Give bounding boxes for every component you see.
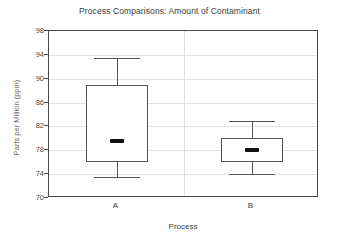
box-plot-b xyxy=(49,31,317,196)
box-plot-chart: Process Comparisons: Amount of Contamina… xyxy=(0,0,339,241)
y-tick-label: 82 xyxy=(0,121,44,130)
lower-whisker xyxy=(252,162,253,174)
y-tick-label: 74 xyxy=(0,169,44,178)
plot-area xyxy=(48,30,318,197)
x-axis-title: Process xyxy=(48,222,318,231)
median-marker xyxy=(245,148,259,152)
lower-whisker-cap xyxy=(229,174,275,175)
y-tick-label: 90 xyxy=(0,73,44,82)
y-tick-label: 94 xyxy=(0,49,44,58)
plot-inner xyxy=(49,31,317,196)
y-tick-mark xyxy=(44,197,48,198)
y-tick-label: 70 xyxy=(0,193,44,202)
y-tick-label: 98 xyxy=(0,26,44,35)
upper-whisker-cap xyxy=(229,121,275,122)
y-tick-label: 86 xyxy=(0,97,44,106)
x-tick-label-a: A xyxy=(86,201,146,210)
y-tick-label: 78 xyxy=(0,145,44,154)
x-tick-label-b: B xyxy=(221,201,281,210)
upper-whisker xyxy=(252,121,253,139)
